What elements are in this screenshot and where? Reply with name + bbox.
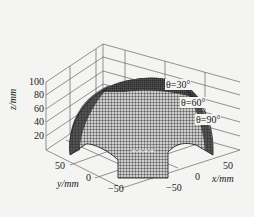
x-tick-50: 50 [223, 161, 233, 171]
x-tick-0: 0 [195, 172, 200, 182]
annotation-theta-30: θ=30° [165, 79, 191, 90]
z-axis-title: z/mm [8, 89, 18, 110]
y-tick-50: 50 [55, 161, 65, 171]
z-tick-80: 80 [22, 90, 44, 100]
x-tick-minus50: −50 [166, 183, 182, 193]
y-tick-minus50: −50 [108, 184, 124, 194]
z-tick-100: 100 [22, 77, 44, 87]
x-axis-title: x/mm [212, 174, 234, 184]
y-axis-title: y/mm [57, 179, 79, 189]
annotation-theta-60: θ=60° [180, 97, 206, 108]
y-tick-0: 0 [86, 173, 91, 183]
annotation-theta-90: θ=90° [195, 114, 221, 125]
z-tick-60: 60 [22, 104, 44, 114]
dome-surface [69, 78, 213, 178]
z-tick-20: 20 [22, 131, 44, 141]
z-tick-40: 40 [22, 117, 44, 127]
